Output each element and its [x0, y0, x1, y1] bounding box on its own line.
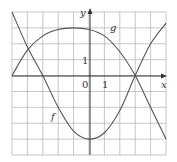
x-tick-label-1: 1: [102, 79, 108, 90]
x-axis-label: x: [161, 79, 167, 90]
origin-label: 0: [82, 79, 88, 90]
curve-label-g: g: [110, 22, 116, 33]
y-tick-label-1: 1: [82, 55, 88, 66]
grid: [12, 12, 166, 155]
chart: y x 0 1 1 f g: [0, 0, 177, 162]
y-axis-label: y: [79, 7, 86, 18]
y-axis-arrow-icon: [88, 8, 93, 14]
curve-label-f: f: [50, 111, 57, 122]
